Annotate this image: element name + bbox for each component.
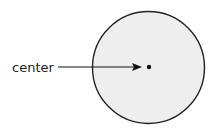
- center-label: center: [12, 60, 54, 75]
- center-point: [147, 65, 151, 69]
- circle-diagram: center: [0, 0, 213, 128]
